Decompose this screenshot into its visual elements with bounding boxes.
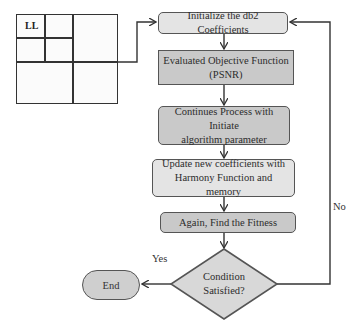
step-label: algorithm parameter xyxy=(181,133,266,147)
end-terminator: End xyxy=(82,270,140,300)
step-find-fitness: Again, Find the Fitness xyxy=(160,212,296,233)
step-evaluate-objective: Evaluated Objective Function (PSNR) xyxy=(158,50,294,85)
end-label: End xyxy=(103,280,120,291)
decision-label: Condition Satisfied? xyxy=(184,270,264,298)
yes-label: Yes xyxy=(152,253,167,264)
decision-line: Satisfied? xyxy=(184,284,264,298)
step-continue-process: Continues Process with Initiate algorith… xyxy=(158,106,290,145)
step-label: Evaluated Objective Function xyxy=(163,54,288,68)
no-label: No xyxy=(333,201,346,212)
step-label: Update new coefficients with xyxy=(162,157,285,171)
step-label: Again, Find the Fitness xyxy=(179,216,277,230)
decision-line: Condition xyxy=(184,270,264,284)
step-label: (PSNR) xyxy=(209,68,242,82)
step-label: Initialize the db2 Coefficients xyxy=(163,9,283,37)
step-label: Continues Process with Initiate xyxy=(163,105,285,133)
step-initialize-coefficients: Initialize the db2 Coefficients xyxy=(158,12,288,34)
step-label: Harmony Function and memory xyxy=(157,171,290,199)
step-update-coefficients: Update new coefficients with Harmony Fun… xyxy=(152,159,295,197)
